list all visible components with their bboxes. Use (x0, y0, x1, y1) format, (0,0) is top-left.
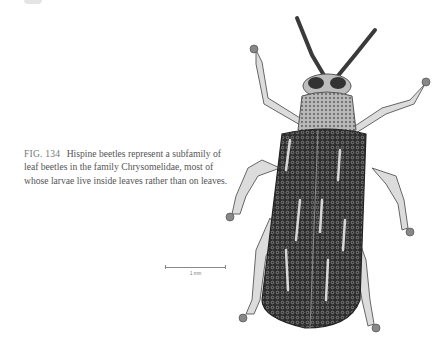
figure-number: FIG. 134 (24, 148, 60, 159)
antennae (297, 18, 375, 77)
scale-label: 1 mm (165, 271, 226, 276)
scale-bar: 1 mm (165, 264, 226, 284)
beetle-illustration (222, 10, 446, 350)
figure-caption: FIG. 134 Hispine beetles represent a sub… (24, 147, 234, 187)
beetle-pronotum (298, 92, 356, 134)
scan-artifact (24, 0, 42, 4)
scale-line (165, 267, 226, 268)
